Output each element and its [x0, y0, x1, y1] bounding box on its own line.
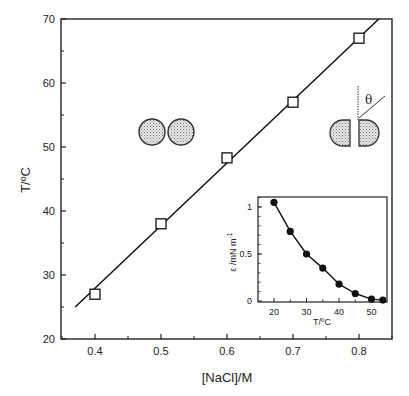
inset-data-point: [352, 290, 359, 297]
inset-data-point: [335, 280, 342, 287]
x-tick-label: 0.8: [351, 345, 366, 357]
x-tick-label: 0.4: [87, 345, 102, 357]
data-point-square: [354, 33, 364, 43]
main-y-ticks: 203040506070: [43, 13, 66, 345]
x-tick-label: 0.7: [285, 345, 300, 357]
y-tick-label: 40: [43, 205, 55, 217]
main-x-ticks: 0.40.50.60.70.8: [62, 334, 392, 357]
inset-x-tick-label: 30: [301, 307, 311, 317]
inset-data-point: [319, 265, 326, 272]
x-tick-label: 0.5: [153, 345, 168, 357]
theta-label: θ: [365, 93, 372, 107]
y-tick-label: 60: [43, 77, 55, 89]
inset-plot-frame: [258, 197, 387, 302]
inset-x-tick-label: 40: [334, 307, 344, 317]
y-tick-label: 20: [43, 333, 55, 345]
y-tick-label: 30: [43, 269, 55, 281]
y-tick-label: 70: [43, 13, 55, 25]
inset-x-tick-label: 20: [269, 307, 279, 317]
main-y-axis-label: T/ºC: [18, 167, 33, 193]
inset-data-point: [287, 228, 294, 235]
inset-plot: 20304050 00.51 T/ºC ε /mN m-1: [226, 197, 387, 327]
data-point-square: [90, 289, 100, 299]
inset-data-point: [270, 199, 277, 206]
inset-data-point: [303, 250, 310, 257]
data-point-square: [288, 97, 298, 107]
inset-y-tick-label: 0: [247, 296, 252, 306]
spherical-droplets-icon: [139, 119, 194, 145]
chart-canvas: 0.40.50.60.70.8 203040506070 [NaCl]/M T/…: [0, 0, 409, 396]
inset-x-tick-label: 50: [366, 307, 376, 317]
main-x-axis-label: [NaCl]/M: [202, 370, 253, 385]
inset-data-point: [368, 296, 375, 303]
inset-y-axis-label: ε /mN m-1: [226, 232, 238, 271]
inset-y-tick-label: 1: [247, 202, 252, 212]
inset-x-axis-label: T/ºC: [313, 317, 331, 327]
inset-data-point: [379, 296, 386, 303]
y-tick-label: 50: [43, 141, 55, 153]
data-point-square: [156, 219, 166, 229]
adhered-droplets-contact-angle-icon: θ: [330, 86, 385, 146]
x-tick-label: 0.6: [219, 345, 234, 357]
data-point-square: [222, 153, 232, 163]
inset-y-tick-label: 0.5: [239, 249, 252, 259]
